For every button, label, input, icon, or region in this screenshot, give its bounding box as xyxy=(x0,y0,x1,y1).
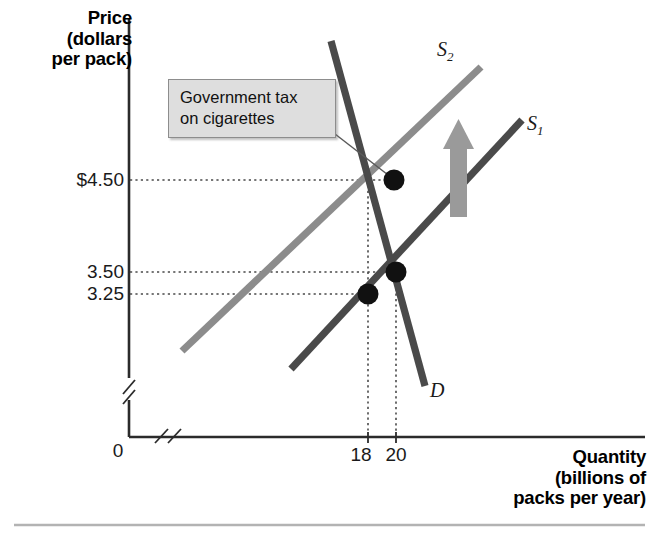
curve-label-supply-before-tax: S1 xyxy=(527,112,544,139)
curve-label-supply-after-tax: S2 xyxy=(437,38,454,65)
supply-shift-arrow-shaft xyxy=(450,145,467,217)
y-tick-label-450: $4.50 xyxy=(38,169,124,191)
y-axis-title-line-3: per pack) xyxy=(52,48,132,69)
curve-label-s2-subscript: 2 xyxy=(447,49,454,64)
economics-supply-demand-figure: Price(dollarsper pack) Quantity(billions… xyxy=(0,0,659,542)
callout-line-1: Government tax xyxy=(180,88,297,106)
curve-label-s1-subscript: 1 xyxy=(537,123,544,138)
x-tick-label-18: 18 xyxy=(346,444,376,466)
government-tax-callout: Government taxon cigarettes xyxy=(168,79,336,138)
curve-label-s2-base: S xyxy=(437,38,447,60)
origin-label: 0 xyxy=(104,440,132,462)
callout-line-2: on cigarettes xyxy=(180,109,274,127)
point-old-equilibrium xyxy=(386,262,407,283)
x-axis-title: Quantity(billions ofpacks per year) xyxy=(408,447,646,509)
guide-lines xyxy=(130,180,396,434)
x-axis-title-line-3: packs per year) xyxy=(513,487,646,508)
x-tick-label-20: 20 xyxy=(381,444,411,466)
x-axis-title-line-1: Quantity xyxy=(573,446,646,467)
point-new-equilibrium xyxy=(384,170,405,191)
y-axis-title-line-1: Price xyxy=(88,7,132,28)
y-axis-title-line-2: (dollars xyxy=(67,28,132,49)
point-seller-net-price xyxy=(358,284,379,305)
x-axis-title-line-2: (billions of xyxy=(555,467,646,488)
axis-break-marks xyxy=(123,380,181,443)
y-axis-title: Price(dollarsper pack) xyxy=(36,8,132,70)
y-tick-label-350: 3.50 xyxy=(38,261,124,283)
supply-shift-arrow-head xyxy=(443,119,474,149)
curve-label-demand: D xyxy=(430,379,444,402)
curve-demand xyxy=(331,41,425,386)
y-tick-label-325: 3.25 xyxy=(38,283,124,305)
curve-label-s1-base: S xyxy=(527,112,537,134)
